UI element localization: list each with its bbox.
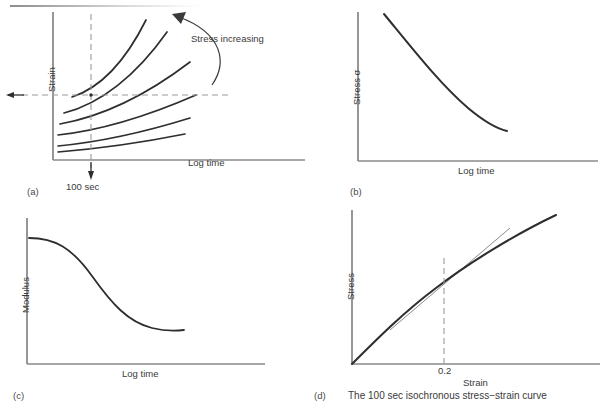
- panel-a-tag: (a): [27, 186, 39, 197]
- panel-d-tangent-line: [390, 228, 510, 330]
- panel-c-tag: (c): [13, 390, 24, 401]
- panel-a-strain-arrow: [6, 92, 24, 98]
- panel-d-x-axis-label: Strain: [463, 377, 488, 388]
- panel-d-tag: (d): [314, 390, 326, 401]
- panel-a-y-axis-label: Strain: [46, 67, 57, 92]
- panel-b-x-axis-label: Log time: [458, 165, 494, 176]
- stress-increasing-arrow: [172, 12, 220, 85]
- panel-d: Stress 0.2 Strain The 100 sec isochronou…: [300, 200, 604, 413]
- panel-a: Strain Log time Stress increasing 100 se…: [0, 0, 320, 200]
- creep-curve-4: [60, 62, 190, 124]
- panel-a-100sec-label: 100 sec: [66, 181, 99, 192]
- panel-a-plot: [0, 0, 320, 200]
- panel-d-plot: [300, 200, 604, 413]
- stress-increasing-label: Stress increasing: [191, 33, 264, 44]
- panel-d-tick-label-02: 0.2: [438, 365, 451, 376]
- creep-curve-5: [64, 32, 167, 113]
- panel-b-stress-decay-curve: [384, 14, 507, 131]
- panel-b: Stress σ Log time (b): [320, 0, 604, 200]
- panel-a-intersection-markers: [89, 93, 92, 96]
- panel-c-y-axis-label: Modulus: [20, 277, 31, 313]
- panel-c-modulus-curve: [29, 238, 184, 331]
- panel-d-y-axis-label: Stress: [345, 273, 356, 300]
- panel-d-caption: The 100 sec isochronous stress−strain cu…: [348, 390, 547, 401]
- panel-c: Modulus Log time (c): [0, 200, 300, 413]
- creep-curve-6: [72, 20, 146, 97]
- panel-b-tag: (b): [350, 186, 362, 197]
- panel-d-isochronous-curve: [352, 215, 556, 364]
- panel-a-100sec-arrow: [88, 162, 94, 180]
- panel-b-y-axis-label: Stress σ: [351, 70, 362, 105]
- panel-a-x-axis-label: Log time: [188, 157, 224, 168]
- figure-creep-stress-strain: Strain Log time Stress increasing 100 se…: [0, 0, 604, 413]
- panel-a-creep-curves: [58, 20, 196, 152]
- panel-c-plot: [0, 200, 300, 413]
- panel-c-x-axis-label: Log time: [122, 368, 158, 379]
